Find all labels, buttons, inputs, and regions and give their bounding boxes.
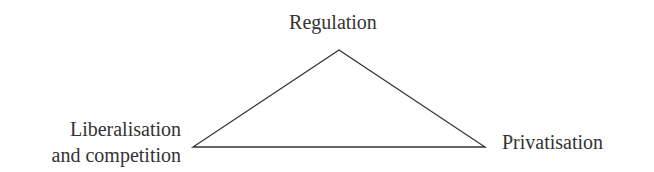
label-liberalisation-line1: Liberalisation bbox=[20, 116, 181, 142]
label-liberalisation-and-competition: Liberalisation and competition bbox=[20, 116, 181, 168]
label-liberalisation-line2: and competition bbox=[20, 142, 181, 168]
triangle-outline bbox=[193, 50, 485, 147]
label-privatisation: Privatisation bbox=[502, 129, 603, 155]
label-regulation: Regulation bbox=[282, 9, 384, 35]
triangle-diagram: Regulation Liberalisation and competitio… bbox=[0, 0, 654, 172]
